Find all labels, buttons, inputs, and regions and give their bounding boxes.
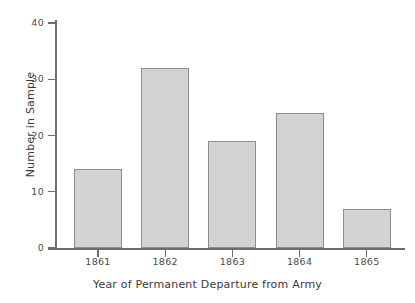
- x-axis-tick-label: 1861: [68, 257, 128, 267]
- x-axis-tick-label: 1864: [270, 257, 330, 267]
- x-axis-tick-label: 1863: [202, 257, 262, 267]
- y-axis-tick-label: 10: [0, 187, 44, 197]
- y-axis-tick: [48, 79, 56, 80]
- y-axis-title: Number in Sample: [24, 35, 37, 215]
- bar-chart-figure: 010203040 18611862186318641865 Year of P…: [0, 0, 415, 303]
- bar: [74, 169, 122, 248]
- y-axis-tick: [48, 22, 56, 23]
- bar: [276, 113, 324, 248]
- y-axis-tick: [48, 135, 56, 136]
- bar: [343, 209, 391, 248]
- y-axis-tick-label: 30: [0, 74, 44, 84]
- bar: [208, 141, 256, 248]
- y-axis-tick: [48, 247, 56, 248]
- y-axis-tick: [48, 191, 56, 192]
- y-axis-tick-label: 20: [0, 131, 44, 141]
- x-axis-title: Year of Permanent Departure from Army: [0, 278, 415, 291]
- x-axis-tick-label: 1865: [337, 257, 397, 267]
- bar: [141, 68, 189, 248]
- x-axis-tick-label: 1862: [135, 257, 195, 267]
- y-axis-tick-label: 0: [0, 243, 44, 253]
- y-axis-tick-label: 40: [0, 18, 44, 28]
